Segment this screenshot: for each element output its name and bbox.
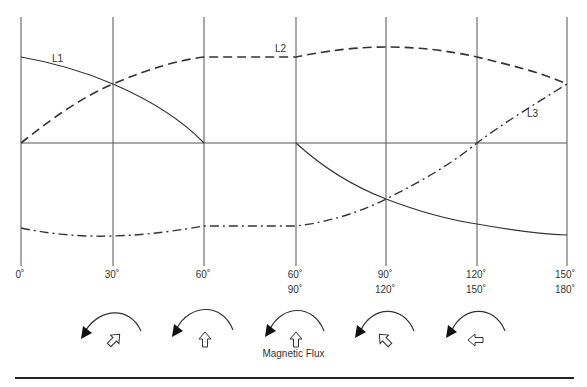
curve-l1-second [296, 143, 567, 235]
tick-label: 120˚ [375, 284, 395, 295]
arrowhead-icon [446, 325, 457, 338]
label-l1: L1 [52, 53, 64, 64]
label-l2: L2 [275, 43, 287, 54]
label-l3: L3 [527, 108, 539, 119]
flux-rotation-4 [355, 311, 414, 338]
curve-l3 [21, 84, 567, 236]
tick-label: 90˚ [378, 269, 392, 280]
flux-arrow-up-left-icon [375, 330, 394, 349]
tick-label: 60˚ [288, 269, 302, 280]
arrowhead-icon [81, 326, 92, 339]
curve-l2 [21, 47, 567, 143]
tick-label: 0˚ [16, 269, 25, 280]
tick-label: 60˚ [196, 269, 210, 280]
x-ticks-row1: 0˚ 30˚ 60˚ 60˚ 90˚ 120˚ 150˚ [16, 269, 575, 280]
tick-label: 120˚ [466, 269, 486, 280]
tick-label: 150˚ [555, 269, 575, 280]
arrowhead-icon [355, 325, 366, 338]
tick-label: 90˚ [288, 284, 302, 295]
caption-magnetic-flux: Magnetic Flux [0, 348, 587, 359]
tick-label: 30˚ [105, 269, 119, 280]
flux-arrow-up-icon [290, 332, 302, 347]
tick-label: 150˚ [466, 284, 486, 295]
flux-arrow-left-icon [468, 334, 483, 346]
phase-diagram: L1 L2 L3 0˚ 30˚ 60˚ 60˚ 90˚ 120˚ 150˚ 90… [0, 0, 587, 387]
bottom-rule [15, 377, 574, 379]
tick-label: 180˚ [555, 284, 575, 295]
x-ticks-row2: 90˚ 120˚ 150˚ 180˚ [288, 284, 575, 295]
grid-lines [21, 17, 567, 266]
flux-rotation-2 [172, 310, 233, 338]
flux-arrow-up-right-icon [105, 330, 124, 349]
flux-arrow-up-icon [199, 332, 211, 347]
arrowhead-icon [265, 324, 276, 337]
